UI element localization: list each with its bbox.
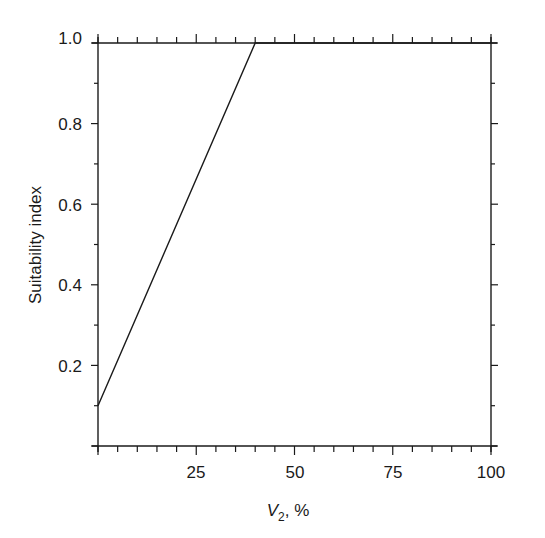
axis-ticks [91, 34, 498, 455]
x-tick-label: 25 [187, 463, 206, 482]
data-line-series [98, 43, 491, 406]
y-tick-label: 0.4 [58, 276, 82, 295]
y-tick-label: 0.6 [58, 196, 82, 215]
x-tick-label: 100 [477, 463, 505, 482]
plot-frame [92, 37, 497, 452]
y-tick-labels: 0.2 0.4 0.6 0.8 1.0 [58, 29, 82, 376]
x-tick-labels: 25 50 75 100 [187, 463, 506, 482]
x-axis-title: V2, % [267, 501, 310, 524]
y-tick-label: 0.8 [58, 115, 82, 134]
x-tick-label: 50 [286, 463, 305, 482]
chart: 0.2 0.4 0.6 0.8 1.0 25 50 75 100 V2, % S… [0, 0, 545, 538]
x-tick-label: 75 [384, 463, 403, 482]
y-tick-label: 1.0 [58, 29, 82, 48]
y-axis-title: Suitability index [26, 185, 45, 304]
y-tick-label: 0.2 [58, 357, 82, 376]
